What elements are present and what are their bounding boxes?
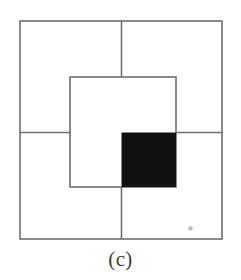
filled-square [122,133,177,188]
speck-mark [188,226,192,230]
figure-drawing [0,0,241,280]
figure-caption: (c) [0,246,241,272]
figure-container: (c) [0,0,241,280]
